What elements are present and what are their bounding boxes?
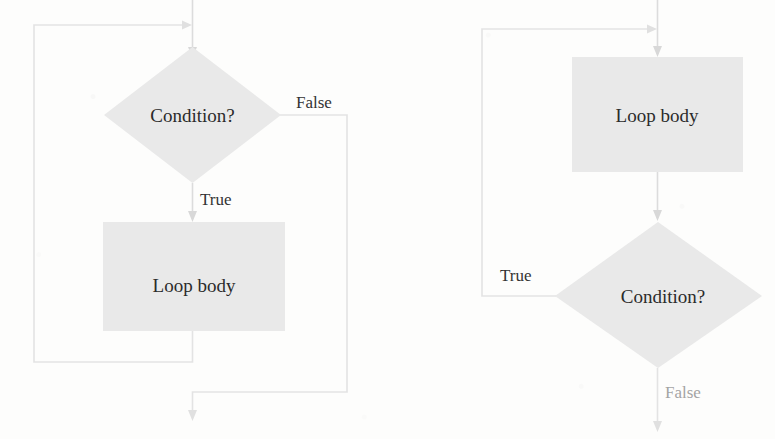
right-loop-body-node: Loop body — [572, 57, 743, 172]
right-flowchart: Loop body Condition? True False — [0, 0, 775, 439]
right-condition-node: Condition? — [555, 222, 762, 368]
right-false-exit-arrow — [653, 368, 662, 432]
flowchart-page: Condition? True False Loop body — [0, 0, 775, 439]
right-condition-label: Condition? — [621, 286, 705, 307]
right-body-to-condition-arrow — [653, 172, 662, 221]
right-false-label: False — [665, 383, 701, 402]
right-loop-body-label: Loop body — [616, 105, 699, 126]
right-true-label: True — [500, 266, 532, 285]
